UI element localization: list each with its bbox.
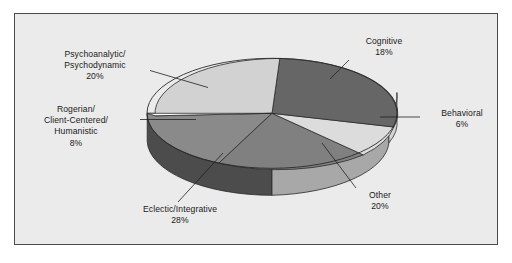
pie-label-cognitive-line1: Cognitive <box>344 36 424 47</box>
pie-label-rogerian: Rogerian/ Client-Centered/ Humanistic 8% <box>14 104 138 149</box>
figure-container: Psychoanalytic/ Psychodynamic 20% Rogeri… <box>0 0 512 263</box>
pie-label-other: Other 20% <box>350 190 410 212</box>
pie-label-behavioral-value: 6% <box>424 119 500 130</box>
pie-label-psychoanalytic-line2: Psychodynamic <box>36 60 154 71</box>
pie-label-behavioral: Behavioral 6% <box>424 108 500 130</box>
pie-label-other-value: 20% <box>350 201 410 212</box>
pie-label-rogerian-line1: Rogerian/ <box>14 104 138 115</box>
pie-label-psychoanalytic: Psychoanalytic/ Psychodynamic 20% <box>36 49 154 83</box>
pie-label-rogerian-line3: Humanistic <box>14 126 138 137</box>
pie-label-rogerian-line2: Client-Centered/ <box>14 115 138 126</box>
slice-top-other <box>155 58 280 115</box>
pie-label-eclectic-line1: Eclectic/Integrative <box>112 204 248 215</box>
pie-label-behavioral-line1: Behavioral <box>424 108 500 119</box>
pie-label-other-line1: Other <box>350 190 410 201</box>
pie-label-eclectic: Eclectic/Integrative 28% <box>112 204 248 226</box>
pie-label-eclectic-value: 28% <box>112 215 248 226</box>
pie-label-psychoanalytic-line1: Psychoanalytic/ <box>36 49 154 60</box>
pie-label-cognitive: Cognitive 18% <box>344 36 424 58</box>
pie-label-cognitive-value: 18% <box>344 47 424 58</box>
pie-label-rogerian-value: 8% <box>14 138 138 149</box>
pie-label-psychoanalytic-value: 20% <box>36 71 154 82</box>
